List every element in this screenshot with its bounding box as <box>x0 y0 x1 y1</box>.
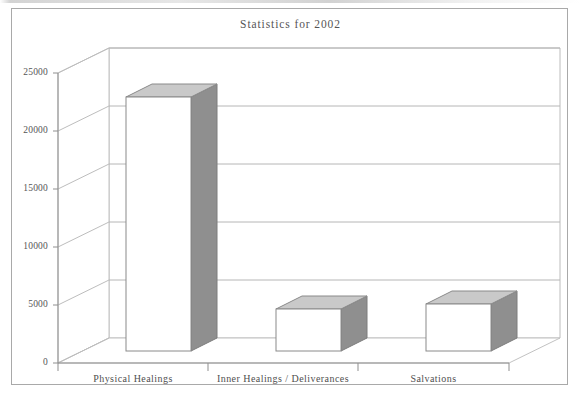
bar-front-face <box>126 97 191 351</box>
x-axis-label-physical-healings: Physical Healings <box>58 373 208 384</box>
chart-canvas <box>12 9 569 386</box>
bar-front-face <box>426 304 491 351</box>
y-axis-label-5000: 5000 <box>4 299 48 309</box>
y-axis-label-10000: 10000 <box>4 241 48 251</box>
plot-area: 25000 20000 15000 10000 5000 0 Physical … <box>12 9 569 386</box>
x-axis-ticks <box>58 363 509 371</box>
x-axis-label-inner-healings-deliverances: Inner Healings / Deliverances <box>208 373 358 384</box>
y-axis-label-25000: 25000 <box>4 67 48 77</box>
bar-front-face <box>276 309 341 351</box>
bar-physical-healings[interactable] <box>126 84 217 351</box>
y-axis-label-0: 0 <box>4 357 48 367</box>
x-axis-label-salvations: Salvations <box>358 373 509 384</box>
scan-edge-artifact <box>0 0 580 3</box>
y-axis-label-15000: 15000 <box>4 183 48 193</box>
chart-frame: Statistics for 2002 <box>11 8 568 385</box>
y-axis-ticks <box>53 73 58 363</box>
y-axis-label-20000: 20000 <box>4 125 48 135</box>
bar-salvations[interactable] <box>426 291 517 351</box>
bar-inner-healings-deliverances[interactable] <box>276 296 367 351</box>
left-wall <box>58 48 109 363</box>
bar-side-face <box>191 84 217 351</box>
